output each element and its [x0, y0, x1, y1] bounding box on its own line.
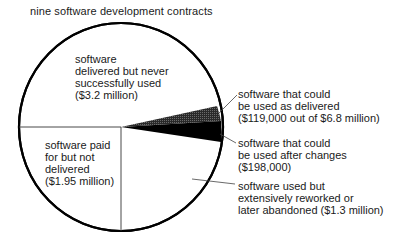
- label-line: be used as delivered: [238, 100, 380, 112]
- label-line: ($1.95 million): [45, 175, 114, 187]
- leader-as-delivered: [219, 95, 237, 113]
- label-line: successfully used: [75, 77, 169, 89]
- label-line: be used after changes: [238, 149, 347, 161]
- label-line: software paid: [45, 139, 114, 151]
- label-line: software that could: [238, 137, 347, 149]
- label-line: extensively reworked or: [238, 192, 384, 204]
- label-line: ($198,000): [238, 161, 347, 173]
- label-line: delivered: [45, 163, 114, 175]
- label-not-delivered: software paid for but not delivered ($1.…: [45, 139, 114, 187]
- label-line: software: [75, 53, 169, 65]
- label-never-used: software delivered but never successfull…: [75, 53, 169, 101]
- label-line: ($3.2 million): [75, 89, 169, 101]
- label-line: delivered but never: [75, 65, 169, 77]
- label-after-changes: software that could be used after change…: [238, 137, 347, 173]
- label-line: software used but: [238, 180, 384, 192]
- chart-title: nine software development contracts: [30, 5, 213, 17]
- label-reworked: software used but extensively reworked o…: [238, 180, 384, 216]
- pie-chart: nine software development contracts soft…: [0, 0, 403, 240]
- label-line: for but not: [45, 151, 114, 163]
- label-as-delivered: software that could be used as delivered…: [238, 88, 380, 124]
- label-line: software that could: [238, 88, 380, 100]
- label-line: ($119,000 out of $6.8 million): [238, 112, 380, 124]
- label-line: later abandoned ($1.3 million): [238, 204, 384, 216]
